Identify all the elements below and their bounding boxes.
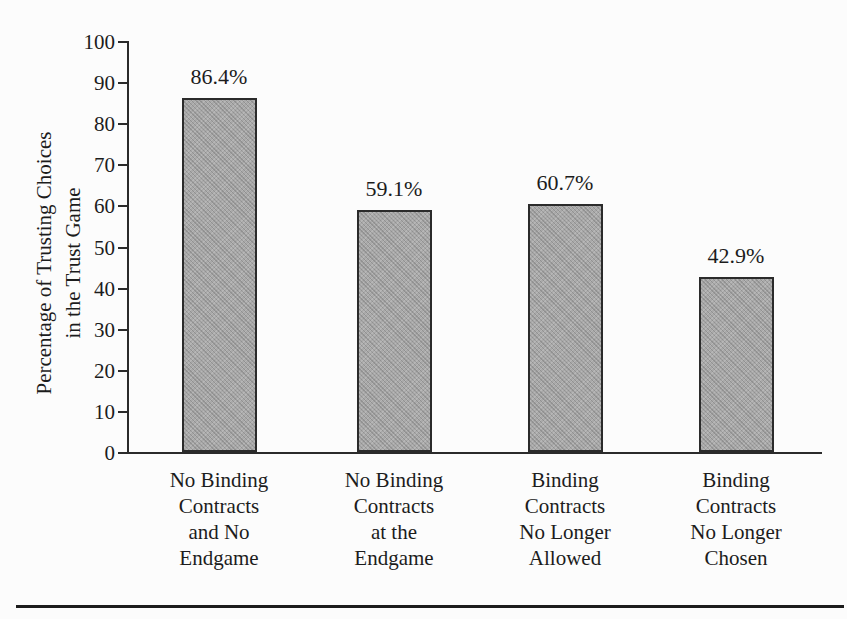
bar-value-label: 59.1% [324,176,464,202]
y-tick-label: 70 [57,152,115,178]
x-category-label-line: Binding [480,467,650,493]
x-category-label-line: No Longer [480,519,650,545]
x-category-label-line: at the [309,519,479,545]
y-tick-label: 30 [57,317,115,343]
x-category-label-line: Chosen [651,545,821,571]
x-category-label-line: Binding [651,467,821,493]
y-tick-label: 80 [57,111,115,137]
y-tick-mark [118,329,127,331]
x-category-label-line: Allowed [480,545,650,571]
x-category-label: BindingContractsNo LongerChosen [651,467,821,571]
x-category-label-line: and No [134,519,304,545]
y-axis-line [127,41,129,454]
x-category-label: No BindingContractsand NoEndgame [134,467,304,571]
y-tick-mark [118,247,127,249]
x-category-label-line: Contracts [309,493,479,519]
y-axis-title-line-1: Percentage of Trusting Choices [30,93,59,433]
y-tick-mark [118,123,127,125]
y-tick-label: 100 [57,29,115,55]
x-category-label-line: Contracts [651,493,821,519]
y-tick-label: 10 [57,399,115,425]
y-tick-label: 20 [57,358,115,384]
x-category-label-line: No Binding [309,467,479,493]
x-category-label: No BindingContractsat theEndgame [309,467,479,571]
y-tick-mark [118,205,127,207]
y-tick-mark [118,370,127,372]
y-tick-label: 90 [57,70,115,96]
bar-value-label: 86.4% [149,64,289,90]
bar [357,210,432,452]
y-tick-mark [118,288,127,290]
x-category-label-line: Contracts [480,493,650,519]
x-category-label: BindingContractsNo LongerAllowed [480,467,650,571]
bar [182,98,257,452]
x-category-label-line: Contracts [134,493,304,519]
bar-value-label: 42.9% [666,243,806,269]
x-category-label-line: No Binding [134,467,304,493]
y-tick-mark [118,41,127,43]
y-tick-mark [118,82,127,84]
x-category-label-line: Endgame [134,545,304,571]
y-tick-label: 60 [57,193,115,219]
y-tick-label: 50 [57,235,115,261]
y-tick-label: 40 [57,276,115,302]
y-tick-mark [118,164,127,166]
bar [699,277,774,452]
figure-bottom-rule [16,605,844,608]
bar-value-label: 60.7% [495,170,635,196]
x-category-label-line: No Longer [651,519,821,545]
y-tick-label: 0 [57,440,115,466]
y-tick-mark [118,452,127,454]
bar [528,204,603,452]
x-axis-line [127,452,822,454]
x-category-label-line: Endgame [309,545,479,571]
y-tick-mark [118,411,127,413]
figure-page: Percentage of Trusting Choices in the Tr… [0,0,847,619]
